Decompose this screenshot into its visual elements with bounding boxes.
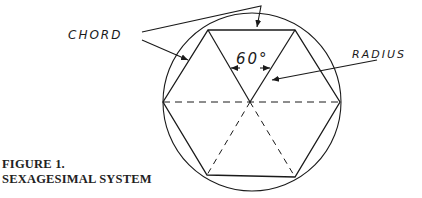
dashed-radius-bottom-left — [207, 102, 250, 175]
chord-label: CHORD — [68, 28, 122, 42]
radius-label: RADIUS — [352, 48, 406, 61]
figure-canvas: 60° CHORD RADIUS FIGURE 1. SEXAGESIMAL S… — [0, 0, 422, 198]
angle-label: 60° — [236, 50, 269, 68]
dashed-radius-bottom-right — [250, 102, 295, 177]
chord-leader-left — [142, 40, 188, 60]
figure-caption: FIGURE 1. SEXAGESIMAL SYSTEM — [2, 157, 152, 187]
caption-title: SEXAGESIMAL SYSTEM — [2, 172, 152, 187]
caption-figure-number: FIGURE 1. — [2, 157, 152, 172]
